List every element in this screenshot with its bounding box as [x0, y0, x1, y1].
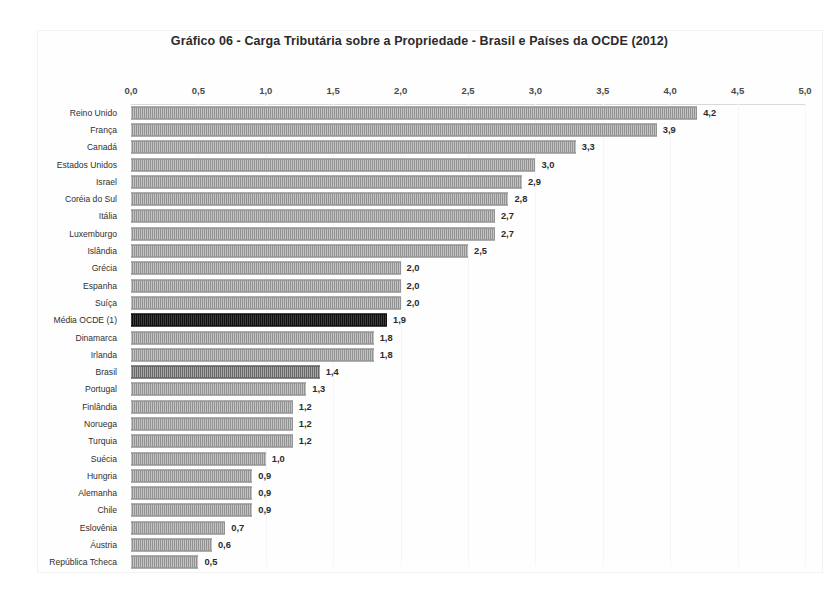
bar-container	[131, 210, 495, 223]
bar	[131, 227, 495, 240]
bar	[131, 296, 401, 309]
bar-row: Hungria0,9	[0, 467, 839, 484]
x-tick-label: 4,5	[731, 85, 744, 96]
x-tick-label: 2,0	[394, 85, 407, 96]
category-label: Noruega	[0, 419, 124, 429]
bar	[131, 504, 252, 517]
bar	[131, 193, 508, 206]
category-label: Alemanha	[0, 488, 124, 498]
category-label: Espanha	[0, 281, 124, 291]
x-tick-label: 5,0	[798, 85, 811, 96]
bar	[131, 314, 387, 327]
bar-row: Portugal1,3	[0, 381, 839, 398]
bar-container	[131, 175, 522, 188]
category-label: Eslovênia	[0, 523, 124, 533]
category-label: Turquia	[0, 436, 124, 446]
bar-row: Eslovênia0,7	[0, 519, 839, 536]
bar-value-label: 2,9	[528, 177, 541, 187]
bar-value-label: 0,6	[218, 540, 231, 550]
bar-container	[131, 417, 293, 430]
category-label: Irlanda	[0, 350, 124, 360]
x-tick-label: 1,5	[327, 85, 340, 96]
bar-value-label: 1,0	[272, 454, 285, 464]
bar-value-label: 2,7	[501, 229, 514, 239]
bar	[131, 469, 252, 482]
bar-row: Chile0,9	[0, 502, 839, 519]
category-label: Suécia	[0, 454, 124, 464]
bar-value-label: 0,9	[258, 505, 271, 515]
bar-row: Áustria0,6	[0, 536, 839, 553]
x-tick-label: 3,0	[529, 85, 542, 96]
bar-container	[131, 539, 212, 552]
bar-row: Grécia2,0	[0, 260, 839, 277]
category-label: Reino Unido	[0, 108, 124, 118]
bar-row: Brasil1,4	[0, 363, 839, 380]
bar-row: Islândia2,5	[0, 242, 839, 259]
bar-container	[131, 383, 306, 396]
category-label: Áustria	[0, 540, 124, 550]
bar-value-label: 1,4	[326, 367, 339, 377]
bar-container	[131, 245, 468, 258]
bar-container	[131, 106, 697, 119]
bar-container	[131, 123, 657, 136]
bar-container	[131, 348, 374, 361]
bar	[131, 521, 225, 534]
category-label: Itália	[0, 211, 124, 221]
bar-value-label: 0,9	[258, 488, 271, 498]
category-label: Canadá	[0, 142, 124, 152]
bar-container	[131, 227, 495, 240]
bar-rows: Reino Unido4,2França3,9Canadá3,3Estados …	[0, 104, 839, 571]
bar-row: Coréia do Sul2,8	[0, 190, 839, 207]
bar-row: Reino Unido4,2	[0, 104, 839, 121]
bar-value-label: 3,9	[663, 125, 676, 135]
bar-container	[131, 279, 401, 292]
bar	[131, 262, 401, 275]
bar-value-label: 4,2	[703, 108, 716, 118]
category-label: República Tcheca	[0, 557, 124, 567]
category-label: Média OCDE (1)	[0, 315, 124, 325]
bar-value-label: 2,8	[514, 194, 527, 204]
category-label: Luxemburgo	[0, 229, 124, 239]
bar-row: Luxemburgo2,7	[0, 225, 839, 242]
bar-value-label: 2,7	[501, 211, 514, 221]
bar-row: Alemanha0,9	[0, 485, 839, 502]
bar-value-label: 1,8	[380, 333, 393, 343]
bar-value-label: 0,9	[258, 471, 271, 481]
bar-container	[131, 366, 320, 379]
category-label: Islândia	[0, 246, 124, 256]
bar-row: Irlanda1,8	[0, 346, 839, 363]
bar-container	[131, 400, 293, 413]
bar	[131, 331, 374, 344]
category-label: Finlândia	[0, 402, 124, 412]
bar	[131, 279, 401, 292]
bar-row: França3,9	[0, 121, 839, 138]
bar-value-label: 0,7	[231, 523, 244, 533]
bar-row: Canadá3,3	[0, 139, 839, 156]
bar-value-label: 1,9	[393, 315, 406, 325]
bar-container	[131, 452, 266, 465]
bar-container	[131, 262, 401, 275]
x-tick-label: 3,5	[596, 85, 609, 96]
x-axis-tick-labels: 0,00,51,01,52,02,53,03,54,04,55,0	[131, 85, 805, 99]
bar-container	[131, 296, 401, 309]
bar-row: Estados Unidos3,0	[0, 156, 839, 173]
x-tick-label: 4,0	[664, 85, 677, 96]
category-label: Chile	[0, 505, 124, 515]
x-tick-label: 0,0	[124, 85, 137, 96]
bar	[131, 435, 293, 448]
category-label: Suíça	[0, 298, 124, 308]
category-label: Portugal	[0, 384, 124, 394]
bar-container	[131, 141, 576, 154]
bar	[131, 417, 293, 430]
bar-value-label: 1,3	[312, 384, 325, 394]
category-label: Brasil	[0, 367, 124, 377]
bar-row: Dinamarca1,8	[0, 329, 839, 346]
category-label: Estados Unidos	[0, 160, 124, 170]
bar	[131, 141, 576, 154]
bar-value-label: 3,3	[582, 142, 595, 152]
bar	[131, 383, 306, 396]
bar-container	[131, 556, 198, 569]
category-label: Dinamarca	[0, 333, 124, 343]
bar-value-label: 1,2	[299, 436, 312, 446]
bar	[131, 123, 657, 136]
